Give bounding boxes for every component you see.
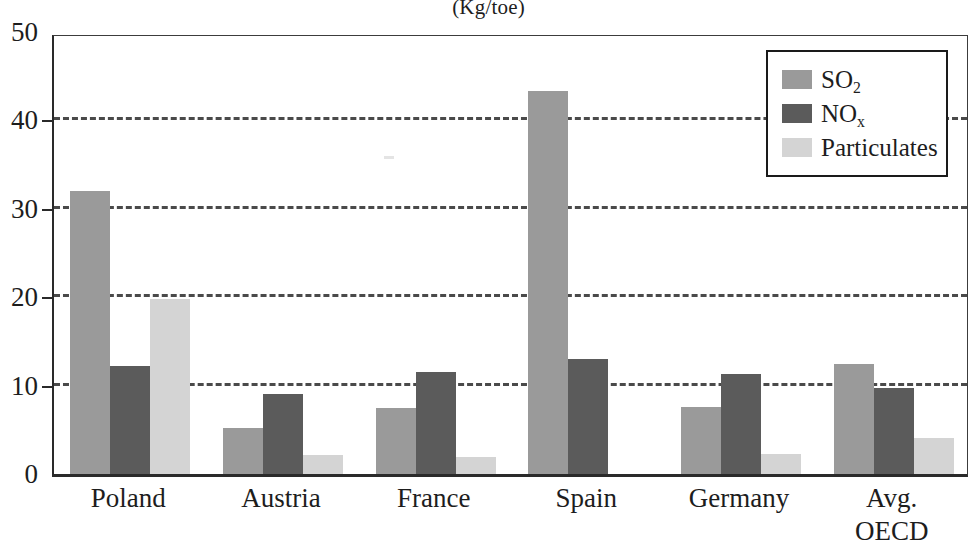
bar-particulates [303,455,343,474]
legend-label-nox: NOx [821,101,865,126]
y-tick-mark-30 [42,209,54,211]
bar-group-spain [528,36,648,474]
bar-nox [416,372,456,474]
bar-group-austria [223,36,343,474]
chart-title: (Kg/toe) [0,0,977,20]
bar-so2 [223,428,263,474]
x-axis-label-germany: Germany [689,482,789,515]
bar-particulates [914,438,954,474]
bar-so2 [528,91,568,474]
x-axis-label-line: OECD [855,515,929,548]
chart-legend: SO2NOxParticulates [766,50,948,177]
legend-swatch-so2 [782,70,812,89]
x-axis-label-france: France [397,482,470,515]
bar-group-france [376,36,496,474]
legend-swatch-nox [782,104,812,123]
bar-nox [874,388,914,474]
chart-page: (Kg/toe) 01020304050 PolandAustriaFrance… [0,0,977,553]
legend-label-so2: SO2 [821,67,861,92]
x-axis-label-austria: Austria [241,482,320,515]
legend-swatch-particulates [782,138,812,157]
y-axis-label-50: 50 [11,19,38,46]
bar-so2 [70,191,110,474]
legend-item-particulates[interactable]: Particulates [782,130,934,164]
x-axis-label-poland: Poland [91,482,166,515]
y-axis-label-20: 20 [11,284,38,311]
legend-label-subscript: x [857,113,865,130]
legend-label-subscript: 2 [853,79,861,96]
y-axis-label-30: 30 [11,195,38,222]
y-axis-label-40: 40 [11,107,38,134]
bar-nox [721,374,761,474]
x-axis-label-line: Austria [241,483,320,513]
x-axis-label-line: France [397,483,470,513]
legend-label-particulates: Particulates [821,135,938,160]
bar-particulates [150,299,190,474]
bar-particulates [761,454,801,474]
bar-so2 [376,408,416,474]
bar-particulates [456,457,496,474]
x-axis-label-avg-oecd: Avg.OECD [855,482,929,548]
y-axis-label-10: 10 [11,372,38,399]
legend-item-nox[interactable]: NOx [782,96,934,130]
bar-group-poland [70,36,190,474]
x-axis-label-line: Poland [91,483,166,513]
bar-so2 [834,364,874,475]
x-axis-label-line: Spain [556,483,618,513]
y-tick-mark-10 [42,386,54,388]
bar-nox [263,394,303,474]
y-axis-label-0: 0 [25,461,39,488]
legend-item-so2[interactable]: SO2 [782,62,934,96]
x-axis-label-spain: Spain [556,482,618,515]
y-tick-mark-20 [42,297,54,299]
x-axis-label-line: Germany [689,483,789,513]
x-axis-label-line: Avg. [866,483,917,513]
bar-nox [568,359,608,474]
x-axis-labels: PolandAustriaFranceSpainGermanyAvg.OECD [52,482,968,552]
scan-artifact [384,156,394,159]
y-tick-mark-40 [42,120,54,122]
bar-so2 [681,407,721,474]
bar-nox [110,366,150,474]
